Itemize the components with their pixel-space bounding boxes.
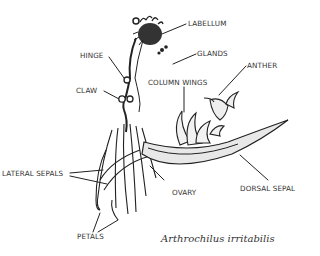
label-anther: ANTHER	[247, 61, 277, 70]
anther	[204, 92, 238, 120]
label-hinge: HINGE	[80, 51, 104, 60]
ovary-bundle	[96, 124, 156, 220]
labellum-head	[133, 16, 168, 54]
label-claw: CLAW	[76, 86, 97, 95]
label-lateral-sepals: LATERAL SEPALS	[2, 169, 63, 178]
label-glands: GLANDS	[197, 49, 228, 58]
orchid-illustration	[0, 0, 320, 256]
label-ovary: OVARY	[172, 188, 196, 197]
label-column-wings: COLUMN WINGS	[148, 78, 207, 87]
label-petals: PETALS	[77, 232, 104, 241]
figure-caption: Arthrochilus irritabilis	[161, 233, 275, 244]
label-labellum: LABELLUM	[188, 19, 226, 28]
orchid-diagram: LABELLUM GLANDS HINGE ANTHER COLUMN WING…	[0, 0, 320, 256]
label-dorsal-sepal: DORSAL SEPAL	[240, 184, 295, 193]
